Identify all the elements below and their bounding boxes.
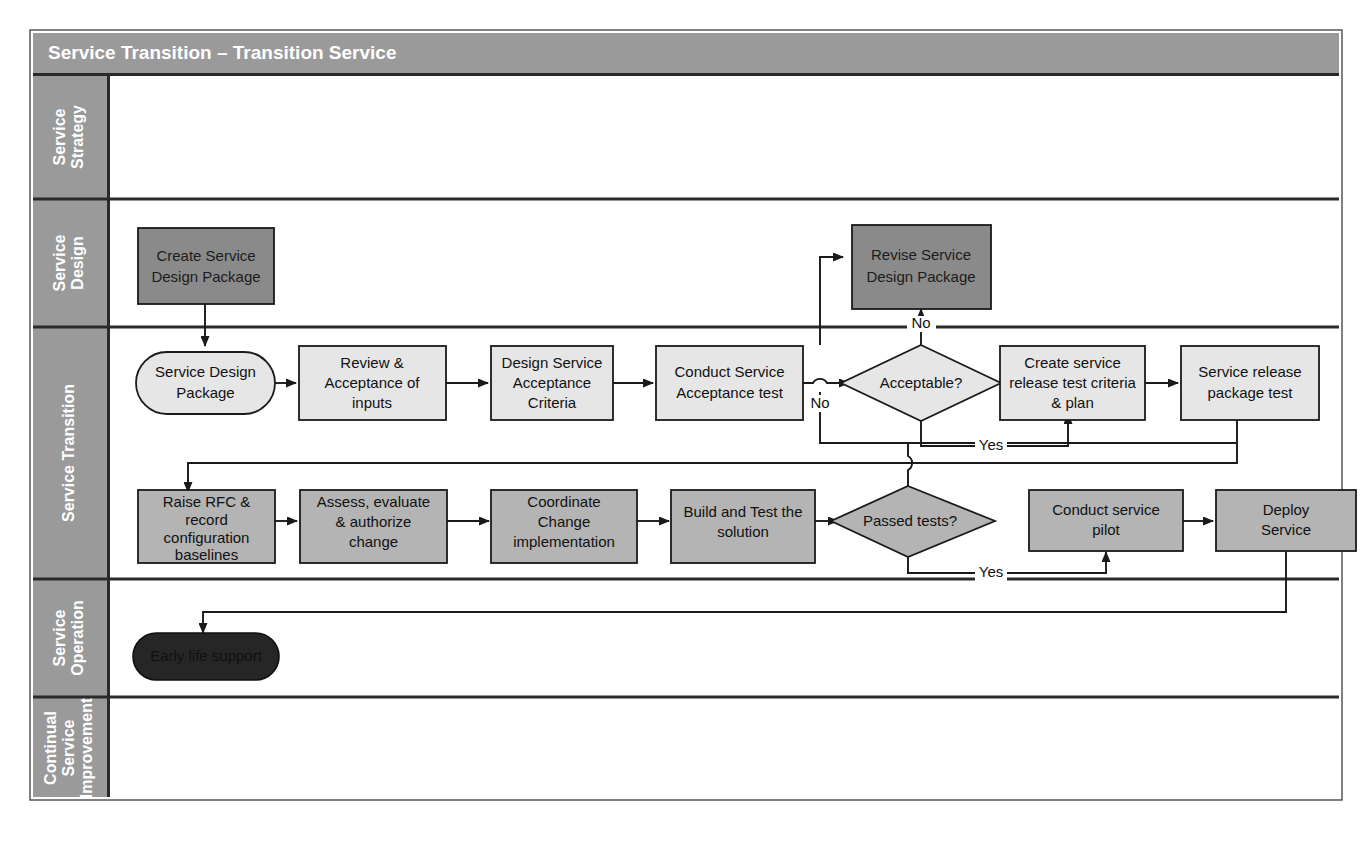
node-label-review-line-1: Acceptance of xyxy=(324,374,420,391)
diagram-root: Service Transition – Transition Service … xyxy=(0,0,1372,842)
edge-package-test-to-raise-rfc xyxy=(188,414,1237,492)
edge-no-channel-to-revise-left xyxy=(820,257,843,345)
node-label-review-line-0: Review & xyxy=(340,354,403,371)
node-label-package-test-line-1: package test xyxy=(1207,384,1293,401)
node-label-coordinate-line-1: Change xyxy=(538,513,591,530)
node-passed-tests-decision[interactable]: Passed tests? xyxy=(831,486,995,557)
lane-label-service-transition: Service Transition xyxy=(60,384,77,522)
node-build-and-test-the-solution[interactable]: Build and Test the solution xyxy=(671,490,815,563)
node-early-life-support[interactable]: Early life support xyxy=(133,633,279,680)
node-label-early-life-support: Early life support xyxy=(150,647,263,664)
node-label-design-criteria-line-2: Criteria xyxy=(528,394,577,411)
node-label-deploy-service-line-1: Service xyxy=(1261,521,1311,538)
node-label-passed-tests-decision: Passed tests? xyxy=(863,512,957,529)
edge-label-acceptable-no-down: No xyxy=(810,394,829,411)
lane-label-service-operation: Service xyxy=(51,609,68,666)
lane-label-continual-service-improvement-line3: Improvement xyxy=(78,697,95,798)
node-create-service-release-test-criteria-plan[interactable]: Create service release test criteria & p… xyxy=(1000,346,1145,420)
flow-connectors xyxy=(188,257,1286,633)
node-label-service-design-package-line-1: Package xyxy=(176,384,234,401)
node-label-build-test-line-1: solution xyxy=(717,523,769,540)
node-label-raise-rfc-line-0: Raise RFC & xyxy=(163,493,251,510)
node-label-review-line-2: inputs xyxy=(352,394,392,411)
lane-label-service-design-line2: Design xyxy=(69,236,86,289)
node-label-coordinate-line-0: Coordinate xyxy=(527,493,600,510)
node-service-release-package-test[interactable]: Service release package test xyxy=(1181,346,1319,420)
lane-label-service-strategy: Service xyxy=(51,108,68,165)
diagram-title-bar: Service Transition – Transition Service xyxy=(33,33,1339,73)
lane-headers: Service Strategy Service Design Service … xyxy=(33,76,108,798)
node-assess-evaluate-authorize-change[interactable]: Assess, evaluate & authorize change xyxy=(300,490,447,563)
node-label-coordinate-line-2: implementation xyxy=(513,533,615,550)
node-label-revise-service-design-package-line-1: Design Package xyxy=(866,268,975,285)
node-label-acceptable-decision: Acceptable? xyxy=(880,374,963,391)
edge-deploy-service-to-early-life-support xyxy=(203,552,1286,633)
edge-label-acceptable-yes: Yes xyxy=(979,436,1003,453)
node-label-conduct-test-line-1: Acceptance test xyxy=(676,384,784,401)
node-label-design-criteria-line-0: Design Service xyxy=(502,354,603,371)
node-coordinate-change-implementation[interactable]: Coordinate Change implementation xyxy=(491,490,637,563)
node-label-conduct-test-line-0: Conduct Service xyxy=(674,363,784,380)
edge-label-passed-tests-yes: Yes xyxy=(979,563,1003,580)
node-conduct-service-acceptance-test[interactable]: Conduct Service Acceptance test xyxy=(656,346,803,420)
node-label-raise-rfc-line-3: baselines xyxy=(175,546,238,563)
node-label-revise-service-design-package-line-0: Revise Service xyxy=(871,246,971,263)
node-label-build-test-line-0: Build and Test the xyxy=(684,503,803,520)
node-deploy-service[interactable]: Deploy Service xyxy=(1216,490,1356,551)
node-label-create-service-design-package-line-0: Create Service xyxy=(156,247,255,264)
lane-label-continual-service-improvement: Continual xyxy=(42,711,59,785)
lane-label-continual-service-improvement-line2: Service xyxy=(60,719,77,776)
node-raise-rfc-record-configuration-baselines[interactable]: Raise RFC & record configuration baselin… xyxy=(138,490,275,563)
lane-label-service-strategy-line2: Strategy xyxy=(69,105,86,169)
lane-dividers xyxy=(33,75,1339,798)
node-label-release-criteria-line-1: release test criteria xyxy=(1009,374,1136,391)
node-label-raise-rfc-line-1: record xyxy=(185,511,228,528)
node-service-design-package[interactable]: Service Design Package xyxy=(136,352,275,414)
node-create-service-design-package[interactable]: Create Service Design Package xyxy=(138,228,274,304)
node-acceptable-decision[interactable]: Acceptable? xyxy=(841,345,1001,421)
edge-passed-tests-no-up xyxy=(908,443,912,487)
lane-label-service-design: Service xyxy=(51,234,68,291)
node-label-package-test-line-0: Service release xyxy=(1198,363,1301,380)
node-label-service-design-package-line-0: Service Design xyxy=(155,363,256,380)
page-title: Service Transition – Transition Service xyxy=(48,42,397,63)
node-label-assess-line-2: change xyxy=(349,533,398,550)
node-label-release-criteria-line-2: & plan xyxy=(1051,394,1094,411)
node-label-pilot-line-1: pilot xyxy=(1092,521,1120,538)
node-review-acceptance-of-inputs[interactable]: Review & Acceptance of inputs xyxy=(299,346,446,420)
node-label-create-service-design-package-line-1: Design Package xyxy=(151,268,260,285)
node-design-service-acceptance-criteria[interactable]: Design Service Acceptance Criteria xyxy=(491,346,613,420)
node-label-pilot-line-0: Conduct service xyxy=(1052,501,1160,518)
node-conduct-service-pilot[interactable]: Conduct service pilot xyxy=(1029,490,1183,551)
node-label-release-criteria-line-0: Create service xyxy=(1024,354,1121,371)
node-label-assess-line-1: & authorize xyxy=(336,513,412,530)
edge-label-acceptable-no-up: No xyxy=(911,314,930,331)
node-revise-service-design-package[interactable]: Revise Service Design Package xyxy=(852,225,991,309)
swimlane-flowchart: Service Transition – Transition Service … xyxy=(0,0,1372,842)
node-label-assess-line-0: Assess, evaluate xyxy=(317,493,430,510)
node-label-design-criteria-line-1: Acceptance xyxy=(513,374,591,391)
node-label-deploy-service-line-0: Deploy xyxy=(1263,501,1310,518)
node-label-raise-rfc-line-2: configuration xyxy=(164,529,250,546)
lane-label-service-operation-line2: Operation xyxy=(69,600,86,676)
